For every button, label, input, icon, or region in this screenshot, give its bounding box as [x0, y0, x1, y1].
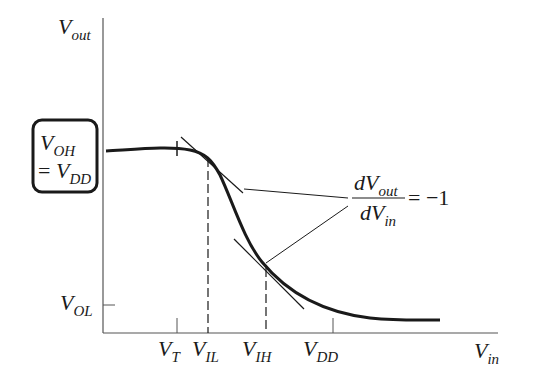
x-axis-label: Vin	[474, 338, 499, 367]
vdd-equals-label: = VDD	[38, 158, 91, 187]
vdd-label: VDD	[303, 336, 338, 365]
tangent-vil	[181, 137, 243, 193]
tangent-vih	[234, 239, 304, 309]
vt-label: VT	[158, 336, 181, 365]
slope-annotation: dVout dVin = −1	[352, 170, 449, 229]
vol-label: VOL	[60, 290, 93, 319]
voh-label: VOH	[40, 130, 76, 159]
vih-label: VIH	[242, 336, 272, 365]
svg-text:dVout: dVout	[354, 170, 398, 199]
svg-text:dVin: dVin	[360, 200, 396, 229]
pointer-line-lower	[266, 206, 348, 263]
y-axis-label: Vout	[58, 14, 91, 43]
vtc-diagram: Vout Vin VOH = VDD VOL VT VIL VIH VDD	[0, 0, 543, 384]
vil-label: VIL	[192, 336, 219, 365]
svg-text:= −1: = −1	[408, 185, 449, 210]
transfer-curve	[106, 148, 440, 320]
pointer-line-upper	[244, 189, 348, 198]
